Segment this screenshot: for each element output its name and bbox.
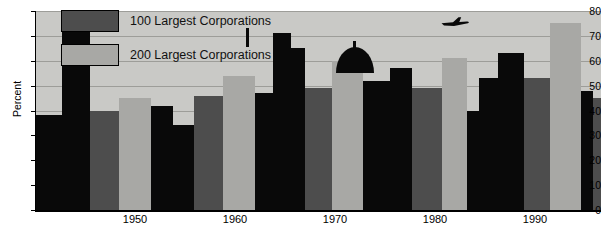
bar-skyline-8: [255, 93, 273, 210]
y-axis-label: Percent: [11, 44, 23, 154]
y-tick-50: 50: [571, 80, 601, 91]
bar-s200-12: [332, 61, 363, 210]
y-tick-0: 0: [571, 205, 601, 216]
y-tick-30: 30: [571, 130, 601, 141]
x-tick-1980: 1980: [423, 213, 447, 225]
bar-s100-11: [305, 88, 332, 210]
bar-skyline-5: [173, 125, 194, 210]
bar-skyline-19: [498, 53, 524, 210]
y-tick-20: 20: [571, 155, 601, 166]
bar-s200-3: [119, 98, 151, 210]
bar-s100-15: [412, 88, 442, 210]
y-tick-80: 80: [571, 6, 601, 17]
y-tick-mark: [31, 160, 36, 161]
y-tick-mark: [31, 11, 36, 12]
bar-s200-7: [223, 76, 255, 210]
y-tick-mark: [31, 111, 36, 112]
bar-s100-20: [524, 78, 550, 210]
y-tick-mark: [31, 210, 36, 211]
y-tick-70: 70: [571, 31, 601, 42]
legend-swatch-100: [61, 10, 119, 32]
bar-s100-2: [90, 111, 119, 211]
capitol-spire-icon: [353, 41, 356, 50]
y-tick-mark: [31, 61, 36, 62]
x-tick-1960: 1960: [223, 213, 247, 225]
bar-skyline-14: [390, 68, 412, 210]
bar-skyline-10: [291, 48, 305, 210]
x-tick-1970: 1970: [323, 213, 347, 225]
bar-skyline-13: [363, 81, 390, 210]
legend-item-100: 100 Largest Corporations: [61, 10, 271, 32]
capitol-dome-icon: [336, 47, 374, 73]
x-tick-1950: 1950: [123, 213, 147, 225]
bar-skyline-18: [479, 78, 498, 210]
bar-skyline-0: [36, 115, 62, 210]
bar-skyline-9: [273, 33, 291, 210]
bar-skyline-4: [151, 106, 173, 210]
legend-label-200: 200 Largest Corporations: [130, 48, 271, 62]
plot-area: [36, 11, 601, 210]
y-tick-60: 60: [571, 56, 601, 67]
legend-swatch-200: [61, 44, 119, 66]
bar-s200-16: [442, 58, 467, 210]
bar-skyline-17: [467, 111, 479, 211]
y-tick-mark: [31, 86, 36, 87]
legend-item-200: 200 Largest Corporations: [61, 44, 271, 66]
gridline: [36, 36, 601, 37]
y-axis: Percent: [0, 0, 36, 229]
y-tick-10: 10: [571, 180, 601, 191]
y-tick-40: 40: [571, 105, 601, 116]
x-tick-1990: 1990: [523, 213, 547, 225]
chart-page: Percent 01020304050607080 19501960197019…: [0, 0, 601, 229]
legend-label-100: 100 Largest Corporations: [130, 14, 271, 28]
x-axis-line: [35, 210, 601, 212]
airplane-icon: [440, 16, 470, 28]
y-tick-mark: [31, 185, 36, 186]
bar-s100-6: [194, 96, 223, 210]
y-tick-mark: [31, 36, 36, 37]
y-tick-mark: [31, 135, 36, 136]
